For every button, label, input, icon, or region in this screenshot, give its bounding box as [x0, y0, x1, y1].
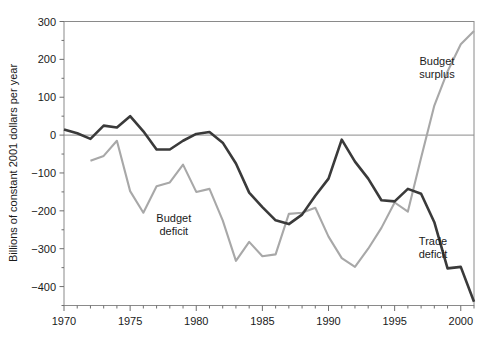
budget-surplus-label-line2: surplus — [419, 68, 455, 80]
y-tick-label: −200 — [31, 205, 56, 217]
budget-deficit-label: Budgetdeficit — [156, 212, 191, 237]
series-layer — [64, 31, 474, 302]
y-tick-label: −300 — [31, 243, 56, 255]
y-tick-label: 100 — [38, 91, 56, 103]
y-axis-title: Billions of constant 2001 dollars per ye… — [7, 64, 19, 262]
x-tick-label: 2000 — [449, 315, 473, 327]
chart-figure: 3002001000−100−200−300−400 1970197519801… — [0, 0, 489, 339]
x-tick-label: 1985 — [250, 315, 274, 327]
x-tick-label: 1995 — [382, 315, 406, 327]
trade-deficit-label: Tradedeficit — [419, 235, 448, 260]
y-axis-ticks: 3002001000−100−200−300−400 — [31, 16, 64, 306]
y-tick-label: −100 — [31, 167, 56, 179]
trade-deficit-label-line1: Trade — [419, 235, 447, 247]
budget-deficit-label-line2: deficit — [159, 225, 188, 237]
plot-frame — [64, 22, 474, 306]
x-tick-label: 1975 — [118, 315, 142, 327]
series-line-trade — [64, 116, 474, 302]
x-tick-label: 1980 — [184, 315, 208, 327]
budget-deficit-label-line1: Budget — [156, 212, 191, 224]
series-line-budget — [90, 31, 474, 267]
x-axis-ticks: 1970197519801985199019952000 — [52, 306, 474, 327]
y-tick-label: −400 — [31, 281, 56, 293]
y-tick-label: 0 — [50, 129, 56, 141]
trade-deficit-label-line2: deficit — [419, 248, 448, 260]
annotation-layer: BudgetsurplusBudgetdeficitTradedeficit — [156, 55, 455, 260]
chart-svg: 3002001000−100−200−300−400 1970197519801… — [0, 0, 489, 339]
budget-surplus-label-line1: Budget — [420, 55, 455, 67]
x-tick-label: 1990 — [316, 315, 340, 327]
x-tick-label: 1970 — [52, 315, 76, 327]
y-tick-label: 200 — [38, 53, 56, 65]
y-tick-label: 300 — [38, 16, 56, 28]
budget-surplus-label: Budgetsurplus — [419, 55, 455, 80]
